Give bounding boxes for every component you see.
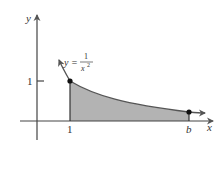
equation-lhs: y = — [63, 57, 78, 68]
x-axis-label: x — [206, 121, 212, 133]
y-one-label: 1 — [27, 75, 33, 87]
area-under-curve-diagram: y x 1 1 b y = 1 x 2 — [0, 0, 222, 182]
shaded-area — [70, 81, 189, 121]
x-one-label: 1 — [67, 123, 73, 135]
curve-equation-label: y = 1 x 2 — [63, 52, 93, 73]
b-label: b — [186, 123, 192, 135]
point-one-one — [67, 78, 72, 83]
point-b — [186, 109, 191, 114]
y-axis-label: y — [25, 12, 31, 24]
equation-exponent: 2 — [87, 62, 90, 68]
equation-denominator: x — [80, 64, 85, 73]
equation-numerator: 1 — [84, 52, 88, 61]
